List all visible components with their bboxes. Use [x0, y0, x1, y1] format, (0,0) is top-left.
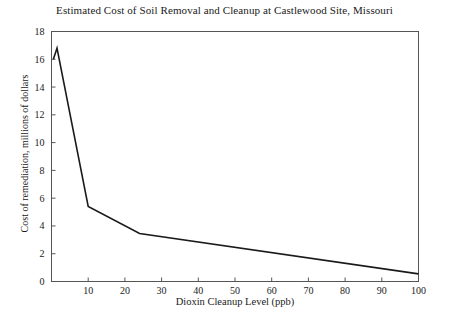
plot-area: 024681012141618 102030405060708090100	[0, 0, 449, 316]
y-tick-label: 14	[35, 82, 45, 93]
x-tick-label: 90	[377, 285, 387, 296]
x-tick-label: 60	[267, 285, 277, 296]
x-axis-ticks: 102030405060708090100	[83, 278, 426, 297]
plot-frame	[52, 32, 419, 282]
chart-figure: Estimated Cost of Soil Removal and Clean…	[0, 0, 449, 316]
x-tick-label: 100	[411, 285, 426, 296]
x-tick-label: 30	[157, 285, 167, 296]
x-tick-label: 80	[340, 285, 350, 296]
x-tick-label: 70	[303, 285, 313, 296]
x-tick-label: 20	[120, 285, 130, 296]
y-tick-label: 18	[35, 26, 45, 37]
x-tick-label: 40	[193, 285, 203, 296]
y-axis-ticks: 024681012141618	[35, 26, 56, 287]
y-tick-label: 12	[35, 109, 45, 120]
plot-border	[52, 32, 419, 282]
x-tick-label: 50	[230, 285, 240, 296]
y-tick-label: 10	[35, 137, 45, 148]
y-tick-label: 2	[40, 248, 45, 259]
y-tick-label: 16	[35, 54, 45, 65]
y-tick-label: 4	[40, 220, 45, 231]
y-tick-label: 6	[40, 193, 45, 204]
data-series-group	[53, 48, 418, 274]
x-tick-label: 10	[83, 285, 93, 296]
y-tick-label: 8	[40, 165, 45, 176]
y-tick-label: 0	[40, 276, 45, 287]
data-line	[53, 48, 418, 274]
